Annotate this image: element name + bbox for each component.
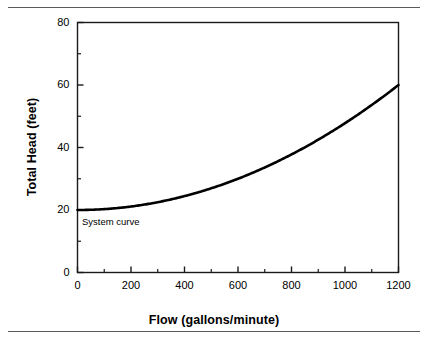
figure-container: Total Head (feet) Flow (gallons/minute) … xyxy=(0,0,428,347)
series-annotation-system-curve: System curve xyxy=(82,216,140,227)
x-tick-label: 1000 xyxy=(315,279,375,291)
x-tick-label: 400 xyxy=(155,279,215,291)
x-tick-label: 800 xyxy=(262,279,322,291)
x-tick-label: 1200 xyxy=(369,279,428,291)
cropped-caption-below xyxy=(8,338,420,347)
x-tick-label: 0 xyxy=(48,279,108,291)
y-tick-label: 40 xyxy=(30,141,70,153)
plot-frame xyxy=(78,23,399,273)
bottom-divider-rule xyxy=(8,331,420,332)
data-series-1 xyxy=(78,85,399,210)
x-tick-label: 200 xyxy=(101,279,161,291)
x-axis-title: Flow (gallons/minute) xyxy=(0,313,428,327)
y-tick-label: 0 xyxy=(30,266,70,278)
chart-plot-area xyxy=(0,0,428,347)
y-tick-label: 60 xyxy=(30,78,70,90)
y-tick-label: 20 xyxy=(30,203,70,215)
y-tick-label: 80 xyxy=(30,16,70,28)
x-tick-label: 600 xyxy=(208,279,268,291)
